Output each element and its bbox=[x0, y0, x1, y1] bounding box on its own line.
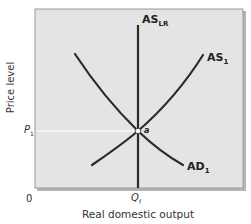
x-tick-qf: Qf bbox=[131, 192, 141, 205]
origin-label: 0 bbox=[26, 193, 32, 204]
p1-sub: 1 bbox=[30, 130, 34, 137]
as1-main: AS bbox=[207, 51, 223, 64]
as-lr-sub: LR bbox=[158, 20, 168, 28]
ad1-sub: 1 bbox=[205, 167, 210, 175]
point-a-label: a bbox=[144, 126, 149, 135]
x-axis-label: Real domestic output bbox=[60, 208, 216, 220]
as1-sub: 1 bbox=[223, 58, 228, 66]
as-lr-main: AS bbox=[142, 13, 158, 26]
y-tick-p1: P1 bbox=[24, 124, 34, 137]
ad1-label: AD1 bbox=[187, 160, 210, 175]
qf-sub: f bbox=[139, 198, 141, 205]
as1-label: AS1 bbox=[207, 51, 228, 66]
as-lr-label: ASLR bbox=[142, 13, 168, 28]
chart-canvas bbox=[0, 0, 251, 224]
qf-main: Q bbox=[131, 192, 139, 203]
equilibrium-point-a bbox=[135, 128, 141, 134]
y-axis-label: Price level bbox=[5, 56, 16, 120]
ad1-main: AD bbox=[187, 160, 205, 173]
